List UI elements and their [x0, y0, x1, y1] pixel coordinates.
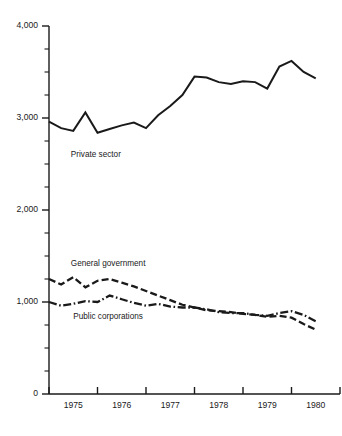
x-axis-tick-label: 1980	[306, 400, 325, 410]
data-series-group	[49, 61, 316, 330]
y-axis-tick-label: 4,000	[16, 20, 38, 30]
series-line-private-sector	[49, 61, 316, 133]
x-axis: 197519761977197819791980	[49, 387, 340, 410]
series-label-private-sector: Private sector	[71, 150, 121, 159]
y-axis-tick-label: 2,000	[16, 204, 38, 214]
x-axis-tick-label: 1975	[64, 400, 83, 410]
x-axis-tick-label: 1977	[161, 400, 180, 410]
series-line-general-government	[49, 277, 316, 329]
chart-container: 01,0002,0003,0004,000 197519761977197819…	[0, 0, 342, 436]
y-axis-tick-label: 1,000	[16, 296, 38, 306]
x-axis-tick-label: 1978	[209, 400, 228, 410]
y-axis-tick-label: 3,000	[16, 112, 38, 122]
y-axis: 01,0002,0003,0004,000	[16, 20, 49, 398]
x-axis-tick-label: 1976	[112, 400, 131, 410]
series-label-public-corporations: Public corporations	[73, 312, 143, 321]
y-axis-tick-label: 0	[33, 388, 38, 398]
x-axis-tick-label: 1979	[258, 400, 277, 410]
series-label-general-government: General government	[71, 259, 146, 268]
line-chart: 01,0002,0003,0004,000 197519761977197819…	[0, 0, 342, 436]
